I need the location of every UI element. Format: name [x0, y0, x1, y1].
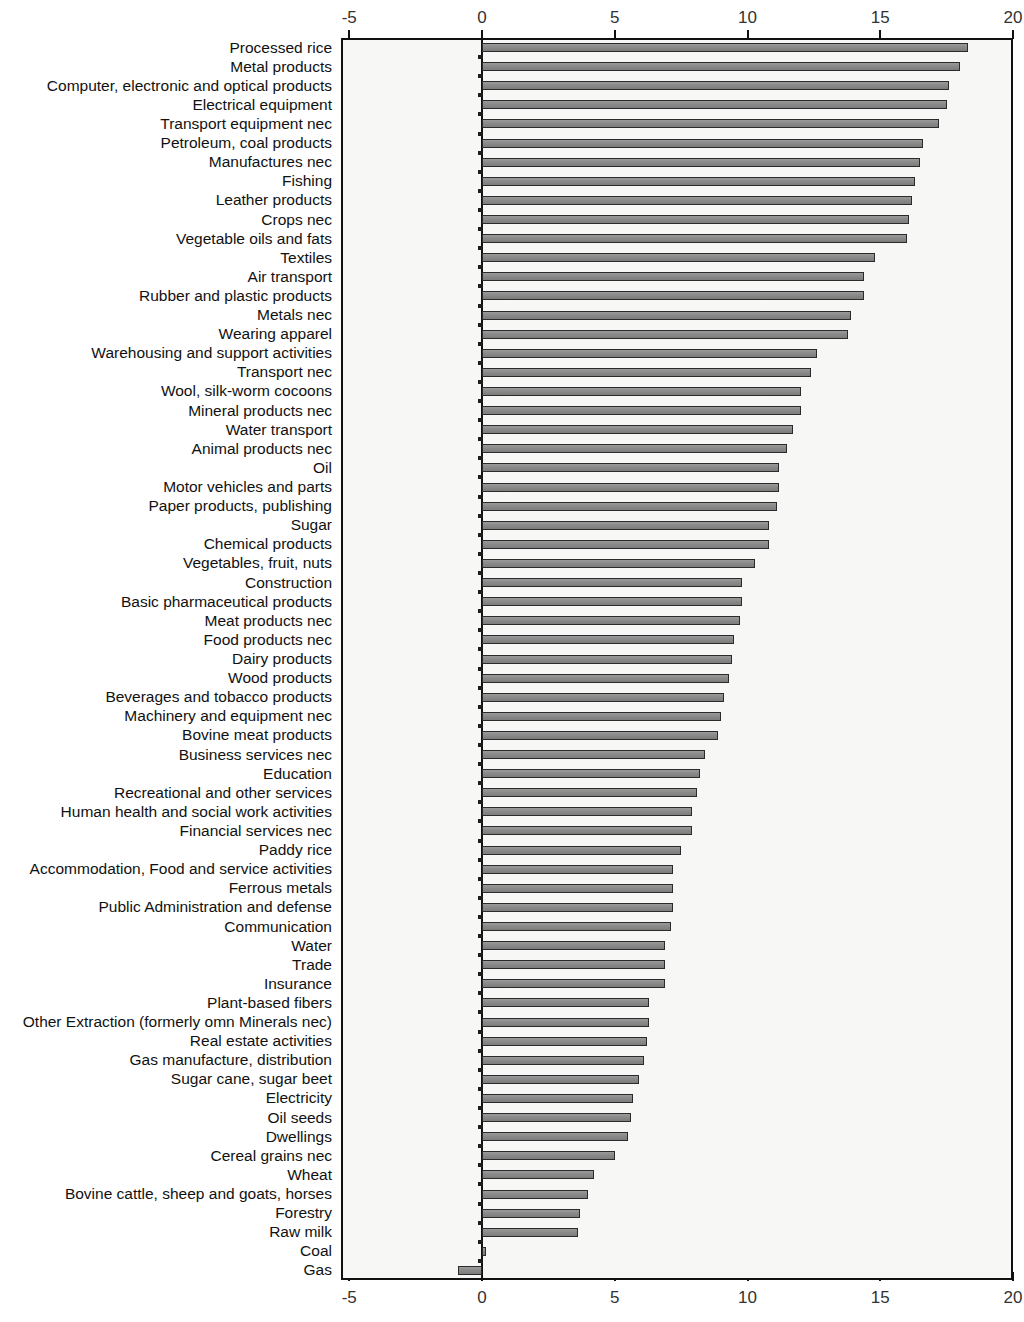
bar [482, 311, 851, 320]
category-label: Warehousing and support activities [91, 345, 332, 361]
category-label: Cereal grains nec [211, 1148, 332, 1164]
bar [482, 253, 875, 262]
category-label: Sugar [291, 517, 332, 533]
bar [482, 81, 949, 90]
zero-axis-stub [478, 514, 483, 518]
zero-axis-stub [478, 74, 483, 78]
bar [482, 406, 801, 415]
bar [482, 674, 729, 683]
category-label: Wheat [287, 1167, 332, 1183]
category-label: Plant-based fibers [207, 995, 332, 1011]
zero-axis-stub [478, 93, 483, 97]
bar [482, 807, 692, 816]
category-label: Motor vehicles and parts [163, 479, 332, 495]
x-axis-tick-label-bottom-15: 15 [871, 1288, 890, 1308]
category-label: Financial services nec [180, 823, 332, 839]
zero-axis-stub [478, 743, 483, 747]
bar [482, 998, 649, 1007]
zero-axis-stub [478, 1125, 483, 1129]
bar [482, 731, 718, 740]
zero-axis-stub [478, 284, 483, 288]
bar-chart: -505101520 -505101520 Processed riceMeta… [0, 0, 1024, 1322]
zero-axis-stub [478, 55, 483, 59]
zero-axis-stub [478, 151, 483, 155]
category-label: Rubber and plastic products [139, 288, 332, 304]
zero-axis-stub [478, 342, 483, 346]
category-label: Paddy rice [259, 842, 332, 858]
bar [482, 635, 734, 644]
zero-axis-stub [478, 1106, 483, 1110]
bar [482, 788, 697, 797]
category-label: Animal products nec [192, 441, 332, 457]
category-label: Air transport [248, 269, 332, 285]
category-axis-labels: Processed riceMetal productsComputer, el… [0, 38, 336, 1280]
category-label: Ferrous metals [229, 880, 332, 896]
bar [482, 272, 864, 281]
category-label: Leather products [216, 192, 332, 208]
bar [482, 1228, 578, 1237]
zero-axis-stub [478, 1182, 483, 1186]
bar [482, 769, 700, 778]
bar [482, 1247, 486, 1256]
x-axis-tick-label-bottom-5: 5 [610, 1288, 619, 1308]
zero-axis-stub [478, 361, 483, 365]
category-label: Dwellings [266, 1129, 332, 1145]
zero-axis-stub [478, 991, 483, 995]
bar [482, 865, 673, 874]
category-label: Manufactures nec [209, 154, 332, 170]
bar [482, 291, 864, 300]
zero-axis-stub [478, 762, 483, 766]
zero-axis-stub [478, 647, 483, 651]
zero-axis-stub [478, 112, 483, 116]
category-label: Petroleum, coal products [161, 135, 332, 151]
bar [482, 425, 793, 434]
zero-axis-stub [478, 1240, 483, 1244]
category-label: Processed rice [229, 40, 332, 56]
category-label: Machinery and equipment nec [124, 708, 332, 724]
zero-axis-stub [478, 552, 483, 556]
bar [482, 712, 721, 721]
category-label: Transport nec [237, 364, 332, 380]
zero-axis-stub [478, 819, 483, 823]
zero-axis-stub [478, 399, 483, 403]
zero-axis-stub [478, 189, 483, 193]
bar [482, 158, 920, 167]
category-label: Recreational and other services [114, 785, 332, 801]
bar [458, 1266, 482, 1275]
zero-axis-stub [478, 246, 483, 250]
zero-axis-stub [478, 724, 483, 728]
bar [482, 483, 779, 492]
zero-axis-stub [478, 781, 483, 785]
category-label: Raw milk [269, 1224, 332, 1240]
category-label: Forestry [275, 1205, 332, 1221]
bar [482, 119, 939, 128]
zero-axis-stub [478, 304, 483, 308]
bar [482, 655, 732, 664]
zero-axis-stub [478, 1087, 483, 1091]
category-label: Coal [300, 1243, 332, 1259]
bars-layer [343, 40, 1011, 1278]
bar [482, 750, 705, 759]
x-axis-tick-label-top--5: -5 [342, 8, 357, 28]
zero-axis-stub [478, 934, 483, 938]
zero-axis-stub [478, 839, 483, 843]
bar [482, 1170, 594, 1179]
bar [482, 578, 742, 587]
bar [482, 444, 787, 453]
bar [482, 463, 779, 472]
zero-axis-stub [478, 628, 483, 632]
bar [482, 177, 915, 186]
category-label: Construction [245, 575, 332, 591]
zero-axis-stub [478, 858, 483, 862]
bar [482, 387, 801, 396]
category-label: Textiles [280, 250, 332, 266]
category-label: Gas [304, 1262, 332, 1278]
zero-axis-stub [478, 953, 483, 957]
zero-axis-stub [478, 495, 483, 499]
category-label: Crops nec [261, 212, 332, 228]
bar [482, 846, 681, 855]
category-label: Fishing [282, 173, 332, 189]
category-label: Insurance [264, 976, 332, 992]
category-label: Food products nec [204, 632, 332, 648]
bar [482, 1151, 615, 1160]
